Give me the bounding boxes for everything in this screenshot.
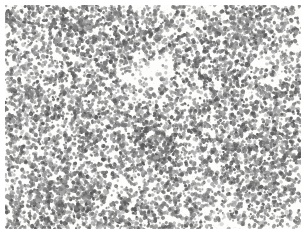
micrograph-figure bbox=[0, 0, 308, 238]
particle-texture-canvas bbox=[0, 0, 308, 238]
